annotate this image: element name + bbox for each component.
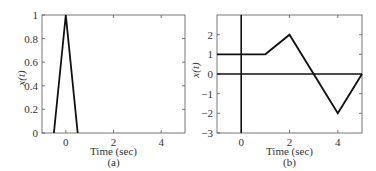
plot-b-xtick-label: 0 <box>238 136 244 148</box>
plot-a-xticks <box>66 15 161 133</box>
plot-a-trace <box>54 15 78 133</box>
plot-a-ytick-label: 0.6 <box>24 56 38 68</box>
plot-b-ytick-label: 1 <box>208 48 214 60</box>
plot-a-ylabel: x(t) <box>15 70 28 87</box>
plot-b-ytick-label: −2 <box>201 107 213 119</box>
plot-b-ytick-label: 2 <box>208 29 214 41</box>
plot-b-ytick-label: −1 <box>201 88 213 100</box>
plot-a-ytick-label: 0 <box>33 127 39 139</box>
plot-a-ytick-label: 1 <box>33 9 39 21</box>
plot-a-caption: (a) <box>107 156 120 169</box>
plot-b-yticks <box>217 35 362 133</box>
plot-b-ytick-label: 0 <box>208 68 214 80</box>
plot-a-ytick-label: 0.2 <box>24 103 38 115</box>
plot-b-ytick-label: −3 <box>201 127 213 139</box>
plot-b-ylabel: x(t) <box>189 62 202 79</box>
figure: 0 0.2 0.4 0.6 0.8 1 0 2 4 Time (sec) (a)… <box>0 0 376 171</box>
plot-b-caption: (b) <box>283 156 296 169</box>
plot-a-xtick-label: 0 <box>63 136 69 148</box>
panel-a: 0 0.2 0.4 0.6 0.8 1 0 2 4 Time (sec) (a)… <box>15 9 185 169</box>
plot-a-ytick-label: 0.8 <box>24 33 38 45</box>
panel-b: −3 −2 −1 0 1 2 0 2 4 Time (sec) (b) x(t) <box>189 15 362 169</box>
plot-a-xtick-label: 4 <box>158 136 164 148</box>
plot-b-xtick-label: 4 <box>335 136 341 148</box>
